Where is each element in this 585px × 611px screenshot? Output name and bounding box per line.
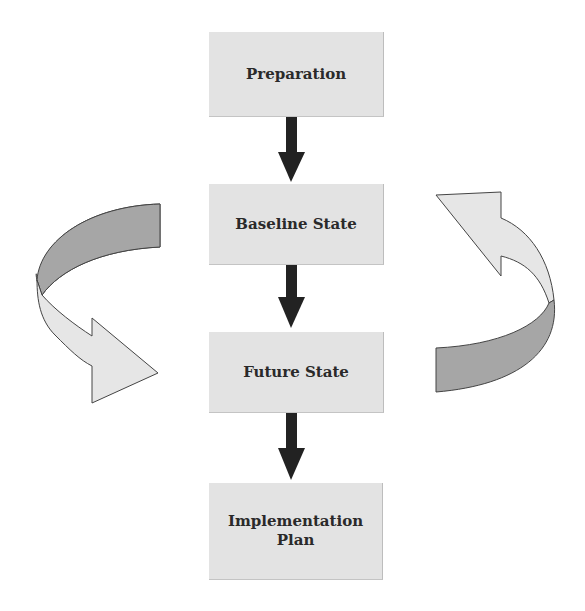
step-baseline-state: Baseline State xyxy=(209,184,384,265)
step-future-state: Future State xyxy=(209,332,384,413)
right-cycle-arrow-icon xyxy=(436,192,555,392)
down-arrow-2 xyxy=(278,264,305,328)
step-label: Preparation xyxy=(246,65,346,84)
step-label: Implementation Plan xyxy=(227,512,364,550)
down-arrow-3 xyxy=(278,412,305,480)
left-cycle-arrow-icon xyxy=(36,204,160,403)
down-arrow-1 xyxy=(278,116,305,182)
step-label: Future State xyxy=(243,363,349,382)
step-implementation-plan: Implementation Plan xyxy=(209,483,383,580)
step-label: Baseline State xyxy=(235,215,356,234)
step-preparation: Preparation xyxy=(209,32,384,117)
